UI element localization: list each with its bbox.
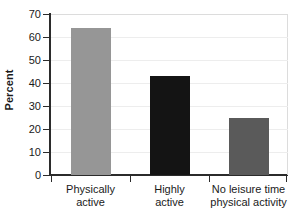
x-axis-separator [209, 176, 210, 182]
bar [150, 76, 190, 175]
x-tick-label-line: active [51, 196, 130, 209]
bar [71, 28, 111, 175]
x-axis-tick-labels: PhysicallyactiveHighlyactiveNo leisure t… [49, 183, 290, 221]
y-tick-label: 50 [17, 55, 41, 66]
x-axis-separator [130, 176, 131, 182]
y-tick-label: 10 [17, 147, 41, 158]
y-tick-label: 0 [17, 170, 41, 181]
x-tick-label-line: physical activity [209, 196, 288, 209]
bar [229, 118, 269, 176]
y-tick-label: 20 [17, 124, 41, 135]
bar-chart: Percent 010203040506070 Physicallyactive… [0, 0, 293, 221]
x-tick-label-line: Physically [51, 183, 130, 196]
x-axis-separators [49, 176, 288, 182]
x-tick-label: Highlyactive [130, 183, 209, 209]
y-tick-label: 40 [17, 78, 41, 89]
x-axis-separator [286, 176, 287, 182]
plot-area [51, 14, 288, 175]
x-axis-separator [51, 176, 52, 182]
x-tick-label: No leisure timephysical activity [209, 183, 288, 209]
x-tick-label: Physicallyactive [51, 183, 130, 209]
y-tick-label: 70 [17, 9, 41, 20]
y-tick-label: 60 [17, 32, 41, 43]
y-axis-title: Percent [0, 0, 18, 180]
y-axis-title-text: Percent [3, 69, 15, 110]
y-tick-label: 30 [17, 101, 41, 112]
y-axis-tick-labels: 010203040506070 [17, 14, 41, 175]
x-tick-label-line: No leisure time [209, 183, 288, 196]
x-tick-label-line: active [130, 196, 209, 209]
x-tick-label-line: Highly [130, 183, 209, 196]
